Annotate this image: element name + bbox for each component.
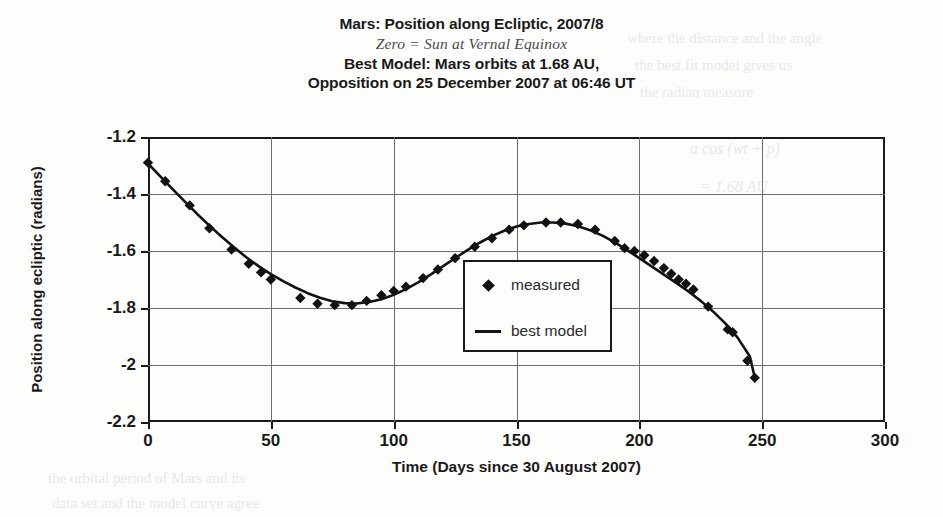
chart-legend: measured best model [463, 260, 612, 352]
scanned-page: where the distance and the angle the bes… [0, 0, 943, 517]
y-axis-tick [141, 422, 148, 424]
x-axis-tick-label: 0 [143, 431, 152, 451]
measured-data-point [347, 300, 357, 310]
chart-title-block: Mars: Position along Ecliptic, 2007/8 Ze… [0, 14, 943, 93]
y-axis-tick [141, 194, 148, 196]
x-axis-tick-label: 150 [502, 431, 530, 451]
x-axis-tick [394, 422, 396, 429]
chart-title-line-4: Opposition on 25 December 2007 at 06:46 … [0, 73, 943, 93]
diamond-marker-icon [465, 281, 511, 290]
y-axis-tick-label: -1.6 [107, 241, 136, 261]
x-axis-tick [762, 422, 764, 429]
y-axis-tick-label: -2.2 [107, 412, 136, 432]
y-axis-tick [141, 308, 148, 310]
x-axis-tick-label: 250 [748, 431, 776, 451]
x-axis-tick [517, 422, 519, 429]
y-axis-tick-label: -1.4 [107, 184, 136, 204]
measured-points-group [143, 157, 760, 383]
y-axis-tick [141, 365, 148, 367]
legend-label-best-model: best model [511, 322, 587, 340]
y-axis-tick [141, 251, 148, 253]
x-axis-tick-label: 300 [871, 431, 899, 451]
y-axis-tick-label: -2 [121, 355, 136, 375]
measured-data-point [312, 299, 322, 309]
x-axis-tick [271, 422, 273, 429]
line-marker-icon [465, 330, 511, 333]
chart-title-line-3: Best Model: Mars orbits at 1.68 AU, [0, 54, 943, 74]
x-axis-tick [148, 422, 150, 429]
chart-subtitle: Zero = Sun at Vernal Equinox [0, 34, 943, 54]
x-axis-tick [885, 422, 887, 429]
bleed-text-line-7: data set and the model curve agree [52, 495, 259, 512]
y-axis-tick-label: -1.2 [107, 127, 136, 147]
x-axis-tick [639, 422, 641, 429]
chart-title-line-1: Mars: Position along Ecliptic, 2007/8 [0, 14, 943, 34]
x-axis-title: Time (Days since 30 August 2007) [148, 458, 885, 476]
x-axis-tick-label: 100 [379, 431, 407, 451]
y-axis-tick [141, 137, 148, 139]
x-axis-title-text: Time (Days since 30 August 2007) [392, 458, 641, 475]
legend-entry-best-model: best model [465, 308, 610, 354]
legend-entry-measured: measured [465, 262, 610, 308]
y-axis-tick-label: -1.8 [107, 298, 136, 318]
x-axis-tick-label: 50 [261, 431, 280, 451]
legend-label-measured: measured [511, 276, 580, 294]
y-axis-title-text: Position along ecliptic (radians) [28, 166, 46, 393]
chart-plot-area: -1.2-1.4-1.6-1.8-2-2.2050100150200250300… [148, 137, 885, 422]
x-axis-tick-label: 200 [625, 431, 653, 451]
y-axis-title: Position along ecliptic (radians) [14, 137, 60, 422]
measured-data-point [295, 293, 305, 303]
